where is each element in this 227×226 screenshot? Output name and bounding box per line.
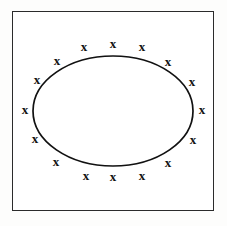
- x-marker: x: [135, 169, 149, 183]
- x-marker: x: [49, 155, 63, 169]
- x-marker: x: [28, 132, 42, 146]
- x-marker: x: [106, 37, 120, 51]
- x-marker: x: [106, 170, 120, 184]
- x-marker: x: [161, 55, 175, 69]
- x-marker: x: [77, 40, 91, 54]
- x-marker: x: [50, 54, 64, 68]
- x-marker: x: [161, 156, 175, 170]
- x-marker: x: [195, 103, 209, 117]
- x-marker: x: [18, 103, 32, 117]
- center-ellipse: [33, 56, 193, 166]
- x-marker: x: [30, 73, 44, 87]
- diagram-figure: xxxxxxxxxxxxxxxx: [0, 0, 227, 226]
- x-marker: x: [79, 169, 93, 183]
- x-marker: x: [186, 133, 200, 147]
- x-marker: x: [135, 40, 149, 54]
- ellipse-layer: [0, 0, 227, 226]
- x-marker: x: [185, 75, 199, 89]
